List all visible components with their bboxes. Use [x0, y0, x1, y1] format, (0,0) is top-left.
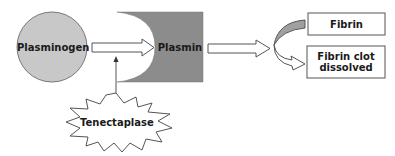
action-arrow — [208, 40, 270, 57]
fibrin-clot-label-line2: dissolved — [307, 62, 385, 73]
activation-arrowhead — [114, 56, 119, 62]
fibrin-curve-band — [274, 20, 305, 45]
plasminogen-label: Plasminogen — [17, 42, 87, 53]
fibrin-label: Fibrin — [308, 19, 385, 30]
dissolution-curved-arrow — [274, 45, 305, 70]
fibrin-clot-label-line1: Fibrin clot — [307, 51, 385, 62]
plasmin-label: Plasmin — [157, 42, 203, 53]
conversion-arrow — [92, 39, 154, 56]
tenecteplase-label: Tenectaplase — [80, 117, 152, 128]
